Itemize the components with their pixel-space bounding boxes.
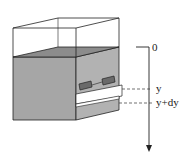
- label-y-plus-dy: y+dy: [156, 96, 179, 108]
- tank-top-back: [13, 18, 119, 28]
- label-y: y: [156, 82, 162, 94]
- label-origin: 0: [152, 41, 158, 53]
- tank-diagram: 0 y y+dy: [0, 0, 193, 162]
- water-front-face: [13, 57, 76, 120]
- axis-origin-tick: [136, 47, 149, 146]
- axis-arrowhead-icon: [146, 145, 152, 152]
